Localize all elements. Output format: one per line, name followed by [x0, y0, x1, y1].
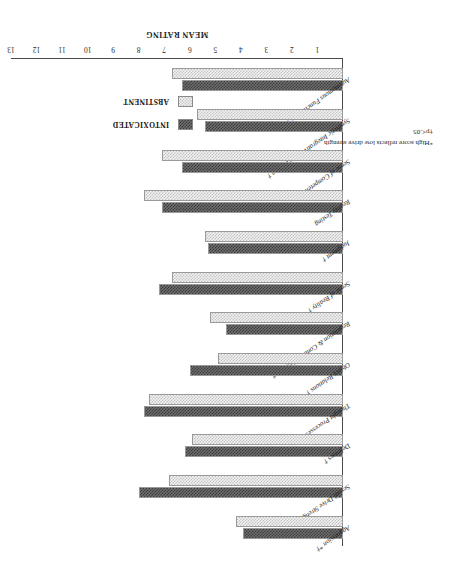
value-axis-tick-label: 13 — [2, 45, 20, 54]
bar-intoxicated — [190, 365, 343, 376]
category-axis-label: Defenses † — [347, 441, 351, 447]
legend-item-label: ABSTINENT — [123, 97, 169, 106]
bar-abstinent — [197, 109, 343, 120]
bar-abstinent — [162, 150, 343, 161]
light-checker-swatch — [178, 96, 193, 107]
bar-chart-figure: 12345678910111213Autonomous Functioning … — [0, 0, 451, 566]
value-axis-tick-label: 6 — [181, 45, 199, 54]
value-axis-line — [11, 58, 343, 59]
value-axis-tick-label: 3 — [257, 45, 275, 54]
bar-intoxicated — [182, 80, 343, 91]
footnote-significance: †p<.05 — [283, 126, 433, 137]
chart-legend: INTOXICATED ABSTINENT — [73, 84, 193, 130]
bar-abstinent — [149, 394, 343, 405]
value-axis-tick-label: 2 — [283, 45, 301, 54]
bar-abstinent — [236, 516, 343, 527]
category-axis-label: Object Relations † — [347, 360, 351, 366]
bar-abstinent — [169, 475, 343, 486]
category-axis-label: Reality Testing — [347, 197, 351, 203]
bar-intoxicated — [185, 446, 343, 457]
bar-abstinent — [192, 434, 343, 445]
bar-intoxicated — [159, 284, 343, 295]
bar-abstinent — [205, 231, 343, 242]
rotated-figure-stage: 12345678910111213Autonomous Functioning … — [0, 0, 451, 566]
bar-abstinent — [218, 353, 343, 364]
legend-item-intoxicated: INTOXICATED — [73, 119, 193, 130]
value-axis-tick-label: 7 — [155, 45, 173, 54]
bar-intoxicated — [144, 406, 343, 417]
bar-abstinent — [172, 68, 343, 79]
bar-abstinent — [210, 312, 343, 323]
category-axis-label: Sexual Drive Strength * — [347, 482, 351, 488]
value-axis-tick-label: 9 — [104, 45, 122, 54]
value-axis-tick-label: 10 — [79, 45, 97, 54]
bar-intoxicated — [139, 487, 343, 498]
dark-checker-swatch — [178, 119, 193, 130]
bar-intoxicated — [182, 162, 343, 173]
legend-item-label: INTOXICATED — [113, 120, 169, 129]
value-axis-title: MEAN RATING — [11, 30, 343, 39]
footnote-drive-strength: *High score reflects low drive strength — [283, 137, 433, 148]
value-axis-tick-label: 5 — [206, 45, 224, 54]
category-axis-label: Thought Processes † — [347, 401, 351, 407]
category-axis-label: Synthetic Integrative Functioning † — [347, 116, 351, 122]
category-axis-label: Autonomous Functioning † — [347, 75, 351, 81]
legend-item-abstinent: ABSTINENT — [73, 96, 193, 107]
category-axis-label: Aggression *† — [347, 523, 351, 529]
value-axis-tick-label: 11 — [53, 45, 71, 54]
bar-abstinent — [172, 272, 343, 283]
category-axis-label: Sense of Competence † — [347, 157, 351, 163]
value-axis-tick-label: 4 — [232, 45, 250, 54]
bar-intoxicated — [162, 202, 343, 213]
value-axis-tick-label: 1 — [308, 45, 326, 54]
category-axis-label: Regulation & Control of Drives † — [347, 319, 351, 325]
category-axis-label: Sense of Reality † — [347, 279, 351, 285]
value-axis-tick-label: 12 — [28, 45, 46, 54]
bar-abstinent — [144, 190, 343, 201]
category-axis-label: Judgment † — [347, 238, 351, 244]
value-axis-tick-label: 8 — [130, 45, 148, 54]
bar-intoxicated — [208, 243, 343, 254]
footnote-block: *High score reflects low drive strength … — [283, 126, 433, 148]
